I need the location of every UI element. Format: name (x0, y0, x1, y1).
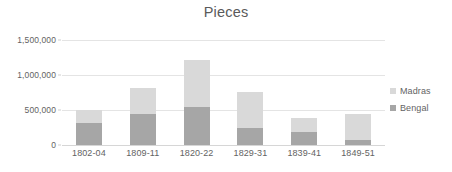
bar-column[interactable] (184, 60, 210, 145)
bar-segment-madras[interactable] (76, 110, 102, 123)
gridline-0 (62, 145, 385, 146)
y-axis-tick-label: 1,000,000 (0, 70, 56, 80)
y-axis-tick-mark (58, 145, 61, 146)
legend-swatch-icon (390, 105, 396, 111)
gridline-1500000 (62, 40, 385, 41)
bar-segment-madras[interactable] (345, 114, 371, 140)
bar-segment-madras[interactable] (130, 88, 156, 114)
bar-column[interactable] (291, 118, 317, 145)
bar-segment-bengal[interactable] (130, 114, 156, 146)
legend-label: Madras (400, 86, 431, 96)
bar-column[interactable] (237, 92, 263, 145)
x-axis-tick-label: 1849-51 (331, 148, 385, 158)
gridline-1000000 (62, 75, 385, 76)
y-axis-tick-mark (58, 75, 61, 76)
bar-segment-bengal[interactable] (291, 132, 317, 145)
bar-segment-bengal[interactable] (76, 123, 102, 145)
y-axis-tick-mark (58, 40, 61, 41)
x-axis-tick-label: 1839-41 (277, 148, 331, 158)
plot-area (62, 40, 385, 145)
x-axis: 1802-041809-111820-221829-311839-411849-… (62, 148, 385, 168)
legend-label: Bengal (400, 103, 429, 113)
x-axis-tick-label: 1829-31 (223, 148, 277, 158)
legend-swatch-icon (390, 88, 396, 94)
y-axis-tick-label: 500,000 (0, 105, 56, 115)
y-axis-tick-label: 1,500,000 (0, 35, 56, 45)
chart-container: Pieces 0500,0001,000,0001,500,000 1802-0… (0, 0, 452, 172)
y-axis: 0500,0001,000,0001,500,000 (0, 40, 56, 145)
y-axis-tick-mark (58, 110, 61, 111)
bar-column[interactable] (76, 110, 102, 145)
gridline-500000 (62, 110, 385, 111)
bar-segment-madras[interactable] (184, 60, 210, 107)
bar-column[interactable] (130, 88, 156, 145)
bar-segment-madras[interactable] (237, 92, 263, 128)
x-axis-tick-label: 1809-11 (116, 148, 170, 158)
bar-segment-bengal[interactable] (345, 140, 371, 145)
y-axis-tick-label: 0 (0, 140, 56, 150)
bar-column[interactable] (345, 114, 371, 145)
chart-legend: MadrasBengal (390, 82, 452, 116)
bar-segment-bengal[interactable] (237, 128, 263, 145)
x-axis-tick-label: 1820-22 (170, 148, 224, 158)
bar-segment-bengal[interactable] (184, 107, 210, 145)
legend-item-bengal[interactable]: Bengal (390, 99, 452, 116)
x-axis-tick-label: 1802-04 (62, 148, 116, 158)
legend-item-madras[interactable]: Madras (390, 82, 452, 99)
chart-title: Pieces (0, 4, 452, 20)
bar-segment-madras[interactable] (291, 118, 317, 132)
